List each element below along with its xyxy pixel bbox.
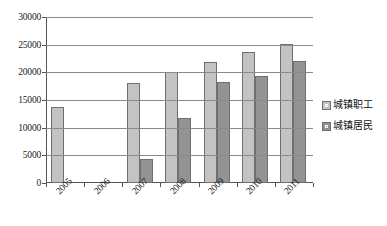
bar: [255, 76, 268, 183]
x-axis-tick: [313, 183, 314, 187]
legend-label-1: 城镇居民: [333, 120, 373, 132]
bar-chart: 050001000015000200002500030000 200520062…: [0, 0, 387, 226]
bar: [51, 107, 64, 183]
bar: [217, 82, 230, 183]
chart-legend: 城镇职工 城镇居民: [322, 99, 386, 141]
y-axis-tick-label: 0: [36, 178, 41, 188]
legend-swatch-icon-0: [322, 101, 331, 110]
y-axis-labels: 050001000015000200002500030000: [0, 17, 41, 183]
y-axis-tick: [42, 155, 46, 156]
y-axis-tick-label: 15000: [18, 95, 41, 105]
gridline: [46, 45, 313, 46]
y-axis-tick: [42, 100, 46, 101]
bar: [127, 83, 140, 183]
y-axis-tick-label: 20000: [18, 67, 41, 77]
legend-item-1[interactable]: 城镇居民: [322, 120, 386, 132]
bar: [204, 62, 217, 183]
y-axis-tick-label: 25000: [18, 40, 41, 50]
y-axis-tick-label: 10000: [18, 123, 41, 133]
y-axis-tick: [42, 128, 46, 129]
legend-item-0[interactable]: 城镇职工: [322, 99, 386, 111]
gridline: [46, 72, 313, 73]
gridline: [46, 128, 313, 129]
y-axis-tick: [42, 17, 46, 18]
y-axis-tick-label: 5000: [23, 150, 41, 160]
gridline: [46, 155, 313, 156]
x-axis-labels: 2005200620072008200920102011: [46, 183, 313, 226]
gridline: [46, 17, 313, 18]
gridline: [46, 100, 313, 101]
plot-area: [46, 17, 313, 183]
legend-label-0: 城镇职工: [333, 99, 373, 111]
y-axis-tick-label: 30000: [18, 12, 41, 22]
legend-swatch-icon-1: [322, 122, 331, 131]
bar: [293, 61, 306, 183]
y-axis-tick: [42, 45, 46, 46]
bar: [280, 44, 293, 183]
y-axis-tick: [42, 72, 46, 73]
